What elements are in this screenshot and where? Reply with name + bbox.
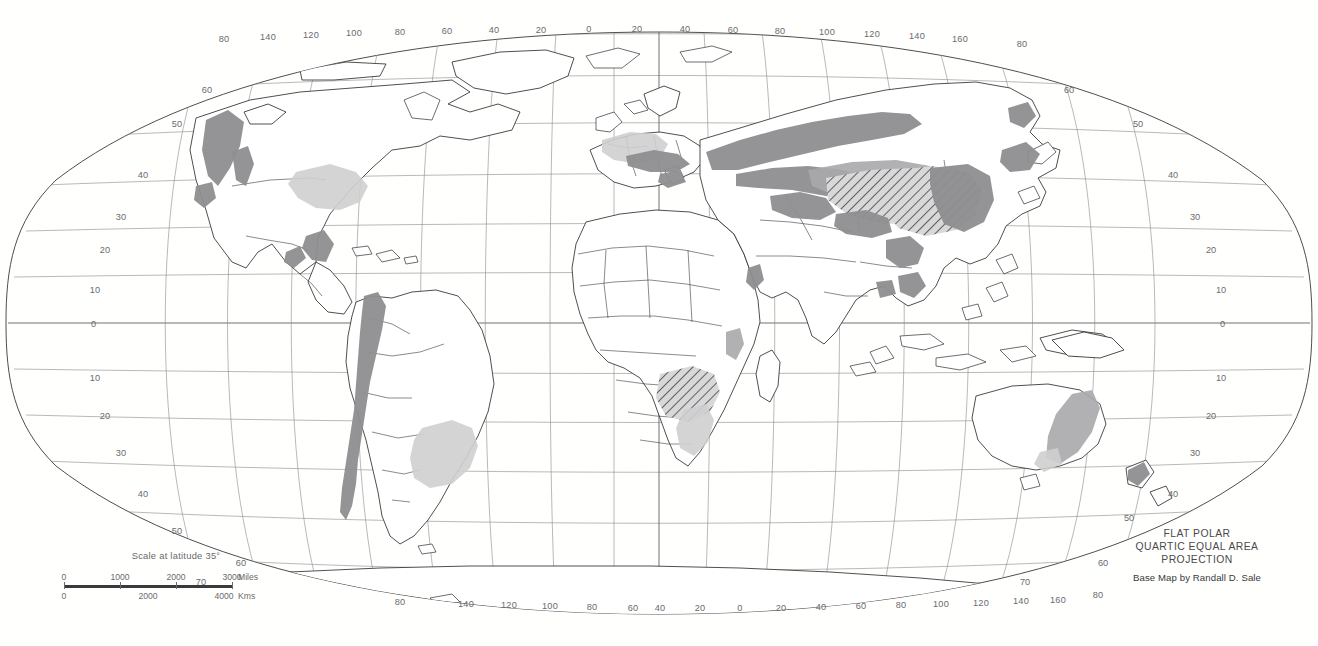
svg-text:40: 40: [489, 25, 500, 35]
svg-text:30: 30: [1190, 448, 1200, 458]
landmass-layer: [120, 46, 1172, 616]
svg-text:100: 100: [542, 601, 558, 611]
scale-kms-tick: 4000: [214, 591, 233, 601]
scale-kms-unit: Kms: [238, 591, 255, 601]
scale-kms-tick: 2000: [138, 591, 157, 601]
svg-text:140: 140: [260, 32, 276, 42]
svg-text:100: 100: [819, 27, 835, 37]
svg-text:20: 20: [100, 245, 110, 255]
svg-text:60: 60: [856, 601, 867, 611]
svg-text:160: 160: [952, 34, 968, 44]
svg-text:30: 30: [116, 448, 126, 458]
scale-kms-tick: 0: [62, 591, 67, 601]
svg-text:20: 20: [100, 411, 110, 421]
greenland-arctic: [452, 46, 732, 94]
svg-text:140: 140: [1013, 596, 1029, 606]
svg-text:60: 60: [202, 85, 212, 95]
svg-text:50: 50: [172, 119, 182, 129]
svg-text:20: 20: [632, 24, 643, 34]
svg-text:120: 120: [501, 600, 517, 610]
scale-title: Scale at latitude 35°: [66, 550, 286, 561]
svg-text:80: 80: [775, 26, 786, 36]
scale-miles-tick: 0: [62, 572, 67, 582]
svg-text:80: 80: [219, 34, 230, 44]
scale-tick: [64, 582, 65, 589]
svg-text:60: 60: [442, 26, 453, 36]
svg-text:100: 100: [933, 599, 949, 609]
svg-text:80: 80: [896, 600, 907, 610]
svg-text:10: 10: [1216, 285, 1226, 295]
svg-text:70: 70: [1020, 577, 1030, 587]
scale-tick: [120, 582, 121, 589]
svg-text:10: 10: [90, 285, 100, 295]
svg-text:0: 0: [1220, 319, 1225, 329]
svg-text:50: 50: [172, 526, 182, 536]
svg-text:60: 60: [628, 603, 639, 613]
svg-text:140: 140: [458, 599, 474, 609]
svg-text:80: 80: [1017, 39, 1028, 49]
world-map: 80 140 120 100 80 60 40 20 0 20 40 60 80…: [0, 0, 1318, 646]
scale-miles-tick: 1000: [110, 572, 129, 582]
svg-text:80: 80: [395, 27, 406, 37]
svg-text:120: 120: [973, 598, 989, 608]
svg-text:20: 20: [536, 25, 547, 35]
svg-text:20: 20: [1206, 245, 1216, 255]
svg-text:60: 60: [728, 25, 739, 35]
svg-text:60: 60: [1064, 85, 1074, 95]
projection-legend: FLAT POLAR QUARTIC EQUAL AREA PROJECTION…: [1098, 527, 1296, 584]
svg-text:140: 140: [909, 31, 925, 41]
svg-text:30: 30: [116, 212, 126, 222]
projection-line-1: FLAT POLAR: [1098, 527, 1296, 540]
svg-text:80: 80: [587, 602, 598, 612]
svg-text:40: 40: [680, 24, 691, 34]
svg-text:0: 0: [91, 319, 96, 329]
svg-text:10: 10: [1216, 373, 1226, 383]
svg-text:40: 40: [138, 489, 148, 499]
svg-text:160: 160: [1050, 595, 1066, 605]
scale-miles-tick: 2000: [166, 572, 185, 582]
svg-text:80: 80: [1093, 590, 1104, 600]
svg-text:20: 20: [776, 603, 787, 613]
scale-art: 0 1000 2000 3000 Miles 0 2000 4000 Kms: [56, 572, 286, 606]
projection-line-3: PROJECTION: [1098, 553, 1296, 566]
svg-text:100: 100: [346, 28, 362, 38]
svg-text:50: 50: [1133, 119, 1143, 129]
base-map-credit: Base Map by Randall D. Sale: [1098, 572, 1296, 584]
projection-line-2: QUARTIC EQUAL AREA: [1098, 540, 1296, 553]
svg-text:20: 20: [695, 603, 706, 613]
svg-text:0: 0: [737, 603, 742, 613]
svg-text:0: 0: [586, 24, 591, 34]
svg-text:30: 30: [1190, 212, 1200, 222]
scale-bar: Scale at latitude 35° 0 1000 2000 3000 M…: [56, 550, 286, 606]
svg-text:50: 50: [1124, 513, 1134, 523]
svg-text:40: 40: [816, 602, 827, 612]
svg-text:80: 80: [395, 597, 406, 607]
svg-text:120: 120: [303, 30, 319, 40]
svg-text:40: 40: [1168, 170, 1178, 180]
svg-text:40: 40: [655, 603, 666, 613]
svg-text:10: 10: [90, 373, 100, 383]
svg-text:20: 20: [1206, 411, 1216, 421]
scale-miles-unit: Miles: [238, 572, 258, 582]
svg-text:40: 40: [1168, 489, 1178, 499]
svg-text:120: 120: [864, 29, 880, 39]
scale-bar-line: [64, 585, 232, 588]
scale-tick: [232, 582, 233, 589]
scale-tick: [176, 582, 177, 589]
svg-text:40: 40: [138, 170, 148, 180]
